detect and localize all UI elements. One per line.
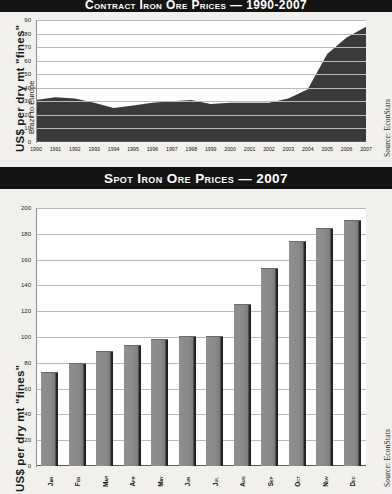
bottom-chart-plot-area bbox=[36, 208, 366, 466]
x-axis-line bbox=[36, 141, 366, 142]
x-tick-label-year: 1996 bbox=[147, 146, 159, 152]
bar-may bbox=[151, 339, 168, 466]
top-chart-y-axis-line bbox=[36, 20, 37, 143]
x-tick-label-year: 1998 bbox=[186, 146, 198, 152]
x-tick-label-month: May bbox=[156, 476, 163, 487]
y-tick-label: 100 bbox=[0, 334, 31, 340]
bottom-chart-title-bar: Spot Iron Ore Prices — 2007 bbox=[0, 167, 392, 189]
bar-nov bbox=[316, 228, 333, 466]
grid-line bbox=[36, 61, 366, 62]
x-tick-label-year: 2007 bbox=[360, 146, 372, 152]
top-chart-plot-area bbox=[36, 20, 366, 142]
grid-line bbox=[36, 47, 366, 48]
x-tick-label-year: 1999 bbox=[205, 146, 217, 152]
x-tick-label-month: Jun bbox=[184, 477, 191, 486]
bar-aug bbox=[234, 304, 251, 466]
bar-apr bbox=[124, 345, 141, 466]
x-tick-label-month: Jul bbox=[211, 477, 218, 486]
bar-jul bbox=[206, 336, 223, 466]
x-tick-label-year: 2005 bbox=[321, 146, 333, 152]
x-tick-label-year: 2000 bbox=[224, 146, 236, 152]
spot-iron-ore-prices-chart: US$ per dry mt "fines" Source: EconStats… bbox=[0, 192, 392, 494]
bar-oct bbox=[289, 241, 306, 466]
y-tick-label: 10 bbox=[0, 125, 31, 131]
x-tick-label-month: Apr bbox=[129, 476, 136, 486]
y-tick-label: 20 bbox=[0, 112, 31, 118]
y-tick-label: 90 bbox=[0, 17, 31, 23]
bottom-chart-y-axis-line bbox=[36, 208, 37, 467]
y-tick-label: 120 bbox=[0, 308, 31, 314]
y-tick-label: 140 bbox=[0, 282, 31, 288]
x-tick-label-month: Dec bbox=[349, 476, 356, 486]
grid-line bbox=[36, 20, 366, 21]
y-tick-label: 160 bbox=[0, 257, 31, 263]
x-tick-label-year: 1990 bbox=[30, 146, 42, 152]
y-tick-label: 80 bbox=[0, 360, 31, 366]
top-chart-title: Contract Iron Ore Prices — 1990-2007 bbox=[85, 0, 307, 12]
y-tick-label: 30 bbox=[0, 98, 31, 104]
y-tick-label: 200 bbox=[0, 205, 31, 211]
x-tick-label-year: 2006 bbox=[341, 146, 353, 152]
area-series-iron-ore-price bbox=[36, 20, 366, 142]
y-tick-label: 40 bbox=[0, 85, 31, 91]
x-tick-label-year: 2003 bbox=[283, 146, 295, 152]
bar-sep bbox=[261, 268, 278, 466]
y-tick-label: 180 bbox=[0, 231, 31, 237]
x-tick-label-month: Mar bbox=[101, 476, 108, 487]
grid-line bbox=[36, 208, 366, 209]
x-tick-label-month: Jan bbox=[46, 477, 53, 486]
grid-line bbox=[36, 74, 366, 75]
x-tick-label-year: 1991 bbox=[50, 146, 62, 152]
bottom-chart-x-tick-labels: JanFebMarAprMayJunJulAugSepOctNovDec bbox=[0, 468, 392, 492]
x-tick-label-year: 2001 bbox=[244, 146, 256, 152]
x-tick-label-year: 1995 bbox=[127, 146, 139, 152]
bar-jun bbox=[179, 336, 196, 466]
infographic-page: Contract Iron Ore Prices — 1990-2007 US$… bbox=[0, 0, 392, 494]
x-tick-label-month: Nov bbox=[321, 476, 328, 486]
grid-line bbox=[36, 115, 366, 116]
x-tick-label-month: Aug bbox=[239, 476, 246, 487]
top-chart-x-tick-labels: 1990199119921993199419951996199719981999… bbox=[0, 146, 392, 156]
y-tick-label: 50 bbox=[0, 71, 31, 77]
y-tick-label: 40 bbox=[0, 411, 31, 417]
x-tick-label-month: Feb bbox=[74, 477, 81, 486]
bar-mar bbox=[96, 351, 113, 466]
grid-line bbox=[36, 101, 366, 102]
y-tick-label: 60 bbox=[0, 58, 31, 64]
y-tick-label: 70 bbox=[0, 44, 31, 50]
y-tick-label: 60 bbox=[0, 386, 31, 392]
x-tick-label-year: 1994 bbox=[108, 146, 120, 152]
grid-line bbox=[36, 34, 366, 35]
x-tick-label-year: 1997 bbox=[166, 146, 178, 152]
top-chart-title-bar: Contract Iron Ore Prices — 1990-2007 bbox=[0, 0, 392, 12]
y-tick-label: 0 bbox=[0, 139, 31, 145]
bottom-chart-title: Spot Iron Ore Prices — 2007 bbox=[104, 171, 288, 186]
x-tick-label-year: 2004 bbox=[302, 146, 314, 152]
x-tick-label-year: 1992 bbox=[69, 146, 81, 152]
x-tick-label-month: Sep bbox=[266, 477, 273, 487]
bar-jan bbox=[41, 372, 58, 466]
contract-iron-ore-prices-chart: US$ per dry mt "fines" Brazil to Europe … bbox=[0, 12, 392, 167]
y-tick-label: 80 bbox=[0, 31, 31, 37]
x-tick-label-year: 1993 bbox=[88, 146, 100, 152]
grid-line bbox=[36, 128, 366, 129]
bar-feb bbox=[69, 363, 86, 466]
x-tick-label-month: Oct bbox=[294, 476, 301, 486]
bar-dec bbox=[344, 220, 361, 466]
y-tick-label: 20 bbox=[0, 437, 31, 443]
x-tick-label-year: 2002 bbox=[263, 146, 275, 152]
grid-line bbox=[36, 88, 366, 89]
